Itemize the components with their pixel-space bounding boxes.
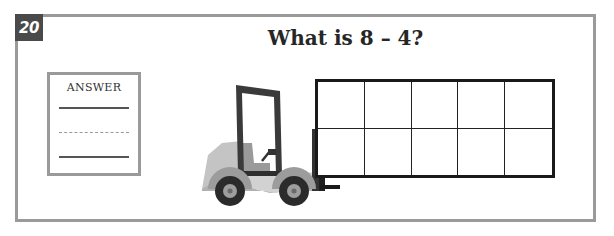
question-card: 20 What is 8 – 4? ANSWER — [15, 14, 596, 222]
ten-frame-cell — [458, 129, 505, 176]
ten-frame-cell — [318, 82, 365, 129]
answer-label: ANSWER — [50, 81, 138, 94]
ten-frame-grid — [315, 79, 555, 178]
ten-frame-cell — [318, 129, 365, 176]
ten-frame-cell — [365, 82, 412, 129]
ten-frame-cell — [412, 129, 459, 176]
answer-line-top — [59, 107, 129, 109]
answer-line-dashed — [59, 132, 129, 133]
answer-line-bottom — [59, 156, 129, 158]
ten-frame-cell — [458, 82, 505, 129]
answer-box[interactable]: ANSWER — [47, 72, 141, 176]
ten-frame-cell — [505, 129, 552, 176]
ten-frame-cell — [412, 82, 459, 129]
question-title: What is 8 – 4? — [18, 26, 593, 50]
ten-frame-cell — [505, 82, 552, 129]
ten-frame-cell — [365, 129, 412, 176]
